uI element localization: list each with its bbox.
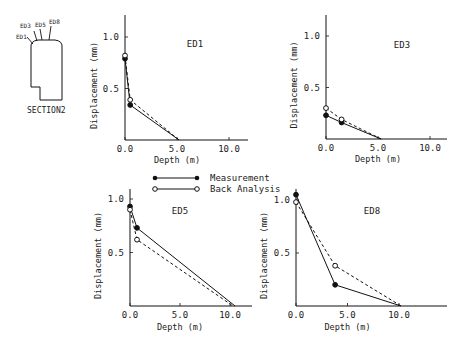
data-point-back-analysis	[324, 106, 329, 111]
data-point-back-analysis	[123, 53, 128, 58]
series-line-measurement	[296, 195, 401, 306]
data-point-back-analysis	[128, 207, 133, 212]
x-axis-label: Depth (m)	[355, 154, 401, 164]
extensometer-line-ed1	[27, 37, 33, 44]
data-point-measurement	[128, 103, 133, 108]
label-ed8: ED8	[49, 18, 60, 25]
chart-title: ED5	[172, 206, 188, 216]
y-tick-label: 0.5	[108, 248, 124, 258]
series-line-measurement	[125, 59, 179, 140]
chart-ed5: 0.05.010.00.51.0ED5Depth (m)Displacement…	[93, 189, 252, 332]
legend-marker-open	[153, 187, 158, 192]
x-tick-label: 5.0	[370, 143, 386, 153]
legend-marker-filled	[195, 176, 200, 181]
x-tick-label: 10.0	[388, 310, 410, 320]
legend-label: Measurement	[210, 173, 270, 183]
x-tick-label: 0.0	[117, 144, 133, 154]
label-ed1: ED1	[16, 33, 27, 40]
label-ed3: ED3	[20, 22, 31, 29]
x-tick-label: 0.0	[318, 143, 334, 153]
chart-title: ED1	[187, 39, 203, 49]
legend-item-back-analysis: Back Analysis	[153, 184, 281, 194]
legend-item-measurement: Measurement	[153, 173, 270, 183]
data-point-back-analysis	[339, 117, 344, 122]
x-tick-label: 0.0	[288, 310, 304, 320]
chart-title: ED3	[394, 40, 410, 50]
data-point-back-analysis	[128, 97, 133, 102]
data-point-measurement	[324, 113, 329, 118]
section-label: SECTION2	[27, 106, 66, 115]
x-axis-label: Depth (m)	[154, 155, 200, 165]
chart-ed3: 0.05.010.00.51.0ED3Depth (m)Displacement…	[289, 15, 447, 164]
label-ed5: ED5	[35, 21, 46, 28]
y-axis-label: Displacement (mm)	[289, 42, 299, 129]
x-tick-label: 0.0	[122, 310, 138, 320]
series-line-measurement	[130, 206, 235, 306]
x-tick-label: 10.0	[419, 143, 441, 153]
chart-title: ED8	[364, 206, 380, 216]
x-axis-label: Depth (m)	[324, 322, 370, 332]
y-axis-label: Displacement (mm)	[89, 42, 99, 129]
y-tick-label: 1.0	[304, 31, 320, 41]
data-point-measurement	[294, 192, 299, 197]
x-tick-label: 5.0	[172, 310, 188, 320]
series-line-measurement	[326, 115, 381, 139]
series-line-back-analysis	[326, 108, 381, 139]
y-tick-label: 0.5	[274, 248, 290, 258]
legend-marker-open	[195, 187, 200, 192]
x-tick-label: 10.0	[219, 310, 241, 320]
chart-ed8: 0.05.010.00.51.0ED8Depth (m)Displacement…	[259, 189, 447, 332]
data-point-back-analysis	[333, 263, 338, 268]
x-axis-label: Depth (m)	[157, 322, 203, 332]
series-line-back-analysis	[125, 56, 179, 140]
series-line-back-analysis	[296, 202, 401, 306]
y-axis-label: Displacement (mm)	[93, 212, 103, 299]
data-point-back-analysis	[135, 237, 140, 242]
y-tick-label: 0.5	[103, 84, 119, 94]
extensometer-line-ed5	[40, 29, 42, 40]
legend-marker-filled	[153, 176, 158, 181]
data-point-measurement	[333, 282, 338, 287]
y-tick-label: 1.0	[103, 32, 119, 42]
x-tick-label: 5.0	[339, 310, 355, 320]
x-tick-label: 10.0	[218, 144, 240, 154]
section-outline	[31, 40, 62, 100]
x-tick-label: 5.0	[169, 144, 185, 154]
y-tick-label: 0.5	[304, 83, 320, 93]
legend: Measurement Back Analysis	[153, 173, 281, 194]
legend-label: Back Analysis	[210, 184, 280, 194]
data-point-back-analysis	[294, 200, 299, 205]
y-axis-label: Displacement (mm)	[259, 212, 269, 299]
extensometer-line-ed3	[34, 31, 37, 41]
data-point-measurement	[135, 225, 140, 230]
extensometer-line-ed8	[49, 26, 51, 40]
figure-canvas: ED1 ED3 ED5 ED8 SECTION2 Measurement Bac…	[0, 0, 462, 344]
chart-ed1: 0.05.010.00.51.0ED1Depth (m)Displacement…	[89, 15, 248, 165]
section-sketch: ED1 ED3 ED5 ED8 SECTION2	[16, 18, 66, 115]
y-tick-label: 1.0	[274, 195, 290, 205]
y-tick-label: 1.0	[108, 194, 124, 204]
